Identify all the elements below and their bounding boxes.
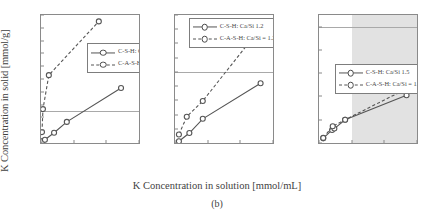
y-tick-mark (175, 71, 178, 72)
x-tick-mark (106, 140, 107, 143)
x-tick-mark (139, 140, 140, 143)
data-point-marker (187, 131, 192, 136)
legend-key-dashed-circle-icon (193, 35, 217, 44)
legend-key-solid-circle-icon (193, 23, 217, 32)
data-point-marker (330, 124, 335, 129)
legend-label-line2: C-A-S-H: Ca/Si = 1.2 (220, 34, 274, 42)
y-tick-mark (41, 40, 44, 41)
data-point-marker (200, 116, 205, 121)
y-tick-mark (41, 79, 44, 80)
legend-label-line1: C-S-H: Ca/Si 1.2 (220, 22, 264, 30)
series-layer-left (41, 15, 139, 143)
legend-label-line2: C-A-S-H: Ca/Si = 1.5 (366, 80, 418, 88)
legend-key-solid-circle-icon (339, 69, 363, 78)
panels-container: C-S-H: Ca/Si 0.85 C-A-S-H: Ca/Si = 0.85 … (14, 10, 434, 175)
x-axis-label: K Concentration in solution [mmol/mL] (0, 180, 434, 191)
legend-entry: C-S-H: Ca/Si 1.5 (339, 68, 418, 78)
y-tick-mark (41, 66, 44, 67)
legend-right: C-S-H: Ca/Si 1.5 C-A-S-H: Ca/Si = 1.5 (335, 64, 418, 94)
y-tick-mark (41, 130, 44, 131)
legend-key-dashed-circle-icon (91, 60, 115, 69)
legend-entry: C-A-S-H: Ca/Si = 1.2 (193, 34, 274, 44)
panel-right: C-S-H: Ca/Si 1.5 C-A-S-H: Ca/Si = 1.5 00… (296, 10, 418, 162)
legend-label-line1: C-S-H: Ca/Si 1.5 (366, 68, 410, 76)
legend-left: C-S-H: Ca/Si 0.85 C-A-S-H: Ca/Si = 0.85 (87, 43, 140, 73)
data-point-marker (321, 135, 326, 140)
data-point-marker (52, 130, 57, 135)
legend-key-dashed-circle-icon (339, 81, 363, 90)
y-tick-mark (319, 96, 322, 97)
data-point-marker (176, 139, 181, 144)
y-tick-mark (175, 43, 178, 44)
panel-middle: C-S-H: Ca/Si 1.2 C-A-S-H: Ca/Si = 1.2 00… (152, 10, 274, 162)
legend-label-line2: C-A-S-H: Ca/Si = 0.85 (118, 59, 140, 67)
data-point-marker (184, 114, 189, 119)
x-tick-mark (351, 140, 352, 143)
series-line (323, 95, 406, 138)
y-tick-mark (175, 15, 178, 16)
plot-area-middle: C-S-H: Ca/Si 1.2 C-A-S-H: Ca/Si = 1.2 00… (174, 14, 274, 144)
data-point-marker (64, 119, 69, 124)
y-tick-mark (41, 53, 44, 54)
y-tick-mark (175, 128, 178, 129)
y-tick-mark (175, 86, 178, 87)
panel-left: C-S-H: Ca/Si 0.85 C-A-S-H: Ca/Si = 0.85 … (18, 10, 140, 162)
y-tick-mark (41, 91, 44, 92)
y-tick-mark (175, 114, 178, 115)
y-tick-mark (319, 119, 322, 120)
y-tick-mark (175, 29, 178, 30)
y-tick-mark (175, 57, 178, 58)
y-axis-label: K Concentration in solid [mmol/g] (0, 14, 13, 172)
legend-label-line1: C-S-H: Ca/Si 0.85 (118, 47, 140, 55)
x-tick-mark (175, 140, 176, 143)
figure-container: K Concentration in solid [mmol/g] C-S-H:… (0, 0, 434, 221)
x-tick-mark (417, 140, 418, 143)
plot-area-left: C-S-H: Ca/Si 0.85 C-A-S-H: Ca/Si = 0.85 … (40, 14, 140, 144)
y-tick-mark (319, 49, 322, 50)
x-tick-mark (41, 140, 42, 143)
y-tick-mark (175, 100, 178, 101)
x-tick-mark (240, 140, 241, 143)
legend-entry: C-S-H: Ca/Si 0.85 (91, 47, 140, 57)
y-tick-mark (319, 26, 322, 27)
figure-caption: (b) (0, 198, 434, 209)
y-tick-mark (41, 104, 44, 105)
x-tick-mark (384, 140, 385, 143)
data-point-marker (119, 85, 124, 90)
y-tick-mark (319, 73, 322, 74)
y-tick-mark (41, 27, 44, 28)
data-point-marker (343, 117, 348, 122)
data-point-marker (176, 132, 181, 137)
series-line (179, 33, 257, 135)
legend-entry: C-A-S-H: Ca/Si = 0.85 (91, 59, 140, 69)
legend-entry: C-S-H: Ca/Si 1.2 (193, 22, 274, 32)
legend-key-solid-circle-icon (91, 48, 115, 57)
legend-middle: C-S-H: Ca/Si 1.2 C-A-S-H: Ca/Si = 1.2 (189, 18, 274, 48)
data-point-marker (258, 81, 263, 86)
data-point-marker (200, 99, 205, 104)
y-tick-mark (41, 15, 44, 16)
y-tick-mark (41, 117, 44, 118)
x-tick-mark (73, 140, 74, 143)
data-point-marker (96, 19, 101, 24)
plot-area-right: C-S-H: Ca/Si 1.5 C-A-S-H: Ca/Si = 1.5 00… (318, 14, 418, 144)
legend-entry: C-A-S-H: Ca/Si = 1.5 (339, 80, 418, 90)
data-point-marker (40, 107, 45, 112)
x-tick-mark (207, 140, 208, 143)
x-tick-mark (319, 140, 320, 143)
data-point-marker (46, 73, 51, 78)
x-tick-mark (273, 140, 274, 143)
